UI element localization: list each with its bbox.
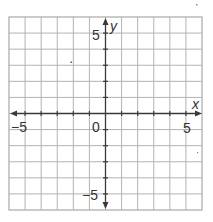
x-axis-label: x — [191, 96, 200, 112]
x-axis-left-arrow-icon — [10, 111, 17, 117]
y-axis-label: y — [109, 18, 118, 34]
scan-speck — [196, 4, 198, 6]
coordinate-plane: y x 5 −5 0 5 −5 — [0, 0, 213, 222]
origin-label: 0 — [92, 119, 100, 135]
scan-speck — [71, 62, 73, 64]
x-tick-label-5: 5 — [183, 120, 191, 136]
y-axis-up-arrow-icon — [103, 18, 109, 25]
x-tick-label-neg5: −5 — [11, 119, 27, 135]
scan-speck — [197, 152, 198, 153]
y-axis-down-arrow-icon — [103, 202, 109, 209]
y-tick-label-neg5: −5 — [82, 187, 98, 203]
y-tick-label-5: 5 — [92, 27, 100, 43]
